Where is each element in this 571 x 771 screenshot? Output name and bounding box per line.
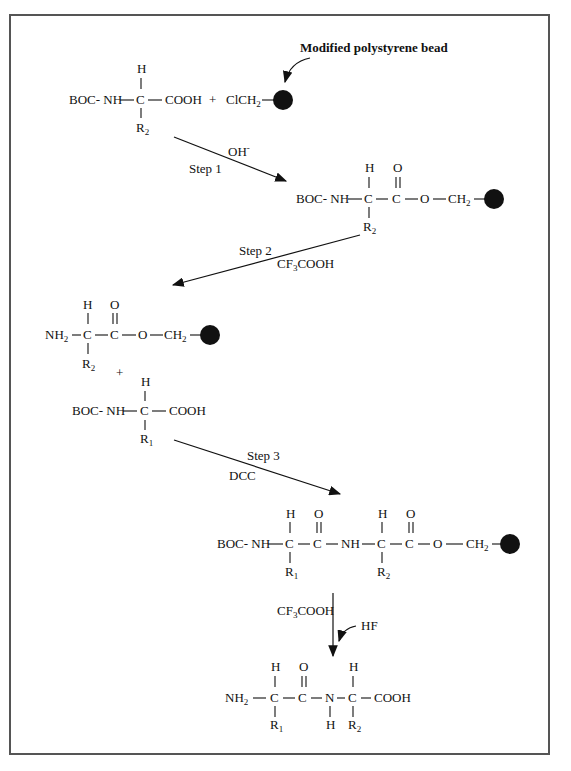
svg-text:C: C (364, 191, 373, 206)
step1-reagent: OH- (228, 143, 250, 159)
svg-text:H: H (326, 717, 335, 732)
svg-text:R1: R1 (285, 564, 298, 581)
svg-text:C: C (348, 690, 357, 705)
svg-text:ClCH2: ClCH2 (226, 92, 261, 109)
hf-reagent: HF (361, 618, 378, 633)
svg-text:BOC- NH: BOC- NH (72, 403, 125, 418)
chloromethyl-bead: ClCH2 (226, 90, 293, 110)
plus-sign: + (209, 92, 216, 107)
svg-text:C: C (110, 327, 119, 342)
svg-text:H: H (271, 659, 280, 674)
svg-text:BOC- NH: BOC- NH (217, 536, 270, 551)
svg-text:CH2: CH2 (164, 327, 187, 344)
svg-text:COOH: COOH (374, 690, 411, 705)
svg-text:C: C (83, 327, 92, 342)
step2-reagent: CF3COOH (277, 256, 334, 273)
synthesis-diagram: Modified polystyrene bead BOC- NH C COOH… (0, 0, 571, 771)
svg-text:COOH: COOH (165, 92, 202, 107)
svg-text:C: C (298, 690, 307, 705)
annotation-arrow-icon (285, 58, 310, 82)
polystyrene-bead-icon (273, 90, 293, 110)
svg-text:R1: R1 (140, 431, 153, 448)
molecule-boc-amino-acid-r1: BOC- NH C COOH H R1 (72, 374, 206, 448)
svg-text:H: H (286, 506, 295, 521)
svg-text:NH2: NH2 (45, 327, 68, 344)
svg-text:H: H (141, 374, 150, 389)
step1-label: Step 1 (189, 161, 222, 176)
svg-text:C: C (285, 536, 294, 551)
cleavage-reagent: CF3COOH (277, 603, 334, 620)
svg-text:O: O (299, 659, 308, 674)
bead-annotation: Modified polystyrene bead (300, 40, 449, 55)
molecule-free-dipeptide: NH2 C C N C COOH H O H R1 H R2 (225, 659, 411, 734)
svg-text:N: N (325, 690, 335, 705)
svg-text:C: C (392, 191, 401, 206)
svg-text:R2: R2 (82, 356, 95, 373)
svg-text:COOH: COOH (169, 403, 206, 418)
svg-text:O: O (138, 327, 147, 342)
svg-text:O: O (420, 191, 429, 206)
svg-text:R2: R2 (377, 564, 390, 581)
molecule-boc-amino-acid-r2: BOC- NH C COOH H R2 (69, 61, 202, 137)
polystyrene-bead-icon (500, 534, 520, 554)
svg-text:C: C (270, 690, 279, 705)
svg-text:O: O (110, 297, 119, 312)
svg-text:NH2: NH2 (225, 690, 248, 707)
step3-reagent: DCC (229, 468, 256, 483)
svg-text:H: H (349, 659, 358, 674)
svg-text:O: O (406, 506, 415, 521)
svg-text:H: H (137, 61, 146, 76)
svg-text:C: C (405, 536, 414, 551)
svg-text:R2: R2 (363, 219, 376, 236)
svg-text:R2: R2 (348, 717, 361, 734)
molecule-boc-ester-bead: BOC- NH C C O CH2 H O R2 (296, 160, 504, 236)
polystyrene-bead-icon (484, 189, 504, 209)
svg-text:H: H (365, 160, 374, 175)
svg-text:CH2: CH2 (466, 536, 489, 553)
svg-text:C: C (377, 536, 386, 551)
svg-text:O: O (433, 536, 442, 551)
polystyrene-bead-icon (200, 325, 220, 345)
step2-label: Step 2 (239, 243, 272, 258)
svg-text:C: C (136, 92, 145, 107)
molecule-boc-dipeptide-bead: BOC- NH C C NH C C O CH2 H O H O R1 R2 (217, 506, 520, 581)
svg-text:R1: R1 (270, 717, 283, 734)
svg-text:O: O (393, 160, 402, 175)
step3-label: Step 3 (247, 448, 280, 463)
molecule-deprotected-ester-bead: NH2 C C O CH2 H O R2 (45, 297, 220, 373)
svg-text:O: O (314, 506, 323, 521)
svg-text:R2: R2 (136, 120, 149, 137)
svg-text:BOC- NH: BOC- NH (69, 92, 122, 107)
svg-text:BOC- NH: BOC- NH (296, 191, 349, 206)
svg-text:CH2: CH2 (448, 191, 471, 208)
svg-text:H: H (378, 506, 387, 521)
svg-text:NH: NH (341, 536, 360, 551)
hf-arrow-icon (339, 626, 356, 641)
svg-text:H: H (83, 297, 92, 312)
svg-text:C: C (140, 403, 149, 418)
svg-text:C: C (313, 536, 322, 551)
plus-sign: + (116, 365, 123, 380)
